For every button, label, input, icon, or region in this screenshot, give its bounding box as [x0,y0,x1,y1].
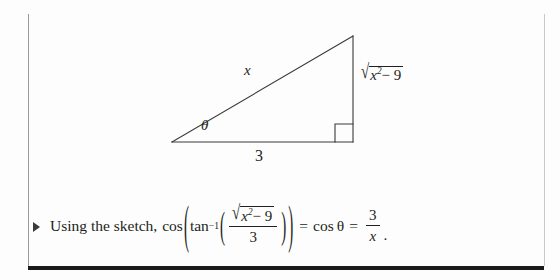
angle-theta-label: θ [201,118,208,133]
opposite-radical: √x2− 9 [361,66,403,83]
sentence-period: . [384,226,388,246]
radical-sign-icon: √ [361,62,369,82]
arctan-function: tan [190,217,209,235]
result-denominator: x [366,226,379,245]
radicand: x2− 9 [369,66,403,83]
fraction-numerator: √x2− 9 [229,206,277,226]
close-paren-inner: ) [281,204,286,247]
opposite-side-label: √x2− 9 [361,66,403,83]
cos-theta: cos θ [313,217,344,235]
radicand-variable: x [370,67,377,83]
slide-canvas: x θ 3 √x2− 9 Using the sketch, cos ( tan… [0,0,560,280]
open-paren-outer: ( [184,196,189,256]
result-numerator: 3 [366,207,380,225]
cos-outer: cos [162,217,183,235]
numerator-variable: x [241,208,248,224]
hypotenuse-label: x [244,63,251,78]
equals-sign-2: = [349,217,358,235]
equation-row: Using the sketch, cos ( tan−1 ( √x2− 9 3… [50,206,387,246]
fraction-denominator: 3 [246,227,260,246]
open-paren-inner: ( [220,204,225,247]
numerator-radicand: x2− 9 [240,206,274,225]
close-paren-outer: ) [288,196,293,256]
equals-sign-1: = [299,217,308,235]
radical-sign-icon: √ [232,201,240,224]
radicand-rest: − 9 [382,67,402,83]
bullet-line: Using the sketch, cos ( tan−1 ( √x2− 9 3… [33,198,533,254]
right-angle-marker [335,124,353,142]
triangle-hypotenuse-line [172,36,353,142]
base-length-label: 3 [255,148,263,164]
result-fraction: 3 x [366,207,380,245]
numerator-radical: √x2− 9 [232,206,274,225]
numerator-rest: − 9 [253,208,273,224]
bottom-rule [28,266,544,270]
lead-text: Using the sketch, [50,217,157,235]
argument-fraction: √x2− 9 3 [229,206,277,246]
triangle-right-bullet-icon [33,222,40,232]
triangle-svg [0,0,560,190]
triangle-figure: x θ 3 √x2− 9 [0,0,560,190]
